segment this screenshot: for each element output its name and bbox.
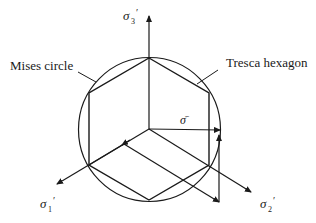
tresca-hexagon-label: Tresca hexagon xyxy=(226,55,308,70)
svg-text:′: ′ xyxy=(273,195,275,206)
svg-text:3: 3 xyxy=(131,17,135,26)
sigma3-label: σ 3 ′ xyxy=(123,7,138,26)
mises-circle-label: Mises circle xyxy=(10,58,73,73)
yield-surface-diagram: Mises circle Tresca hexagon σ̄ σ 3 ′ σ 1… xyxy=(0,0,316,223)
hexagon-inner-edge xyxy=(89,144,124,165)
svg-text:′: ′ xyxy=(136,7,138,18)
svg-text:σ: σ xyxy=(40,196,47,211)
mises-leader-line xyxy=(78,72,96,82)
sigma-bar-label: σ̄ xyxy=(180,113,189,127)
svg-text:σ: σ xyxy=(260,196,267,211)
sigma1-label: σ 1 ′ xyxy=(40,195,55,214)
svg-text:′: ′ xyxy=(53,195,55,206)
sigma2-label: σ 2 ′ xyxy=(260,195,275,214)
tresca-leader-line xyxy=(197,70,218,84)
svg-text:1: 1 xyxy=(48,205,52,214)
svg-text:σ: σ xyxy=(123,8,130,23)
sigma2-axis xyxy=(149,129,251,192)
sigma1-component-arrow xyxy=(122,140,130,145)
svg-text:2: 2 xyxy=(268,205,272,214)
